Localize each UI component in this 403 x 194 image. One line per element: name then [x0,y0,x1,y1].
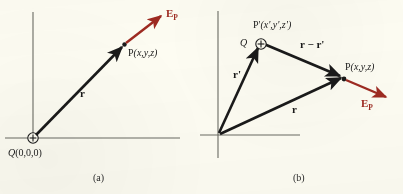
panel-b-r-vector-arrow [220,78,341,134]
panel-b-field-point-coords: (x,y,z) [351,61,375,72]
panel-b-field-point-label: P(x,y,z) [345,62,374,72]
panel-a-r-vector-label: r [80,88,85,99]
panel-a-efield-arrow [126,16,161,43]
panel-b-point-p-dot [342,77,347,82]
panel-a-point-label: P(x,y,z) [128,48,157,58]
panel-a-charge-coords: (0,0,0) [15,147,42,158]
panel-b-r-vector-label: r [292,104,297,115]
panel-a-efield-subscript: P [173,13,178,22]
panel-b-caption: (b) [293,173,305,183]
panel-b-efield-label: EP [361,98,373,112]
panel-a-axes [5,12,180,138]
panel-b-axes [200,11,300,158]
panel-a-point-coords: (x,y,z) [134,47,158,58]
figure-vector-graphics [0,0,403,194]
panel-b-charge-label: Q [240,38,247,48]
panel-b-source-point-label: P'(x',y',z') [253,20,291,30]
panel-b-separation-vector-label: r − r' [300,39,324,50]
panel-a-charge-label: Q(0,0,0) [8,148,42,158]
electric-field-figure: EP P(x,y,z) r Q(0,0,0) (a) P'(x',y',z') … [0,0,403,194]
panel-b-source-point-coords: (x',y',z') [260,19,291,30]
panel-a-caption: (a) [93,173,104,183]
panel-b-efield-arrow [346,80,386,97]
panel-b-charge-symbol [256,39,266,49]
panel-a-r-vector-arrow [36,47,122,135]
panel-b-efield-subscript: P [368,103,373,112]
panel-a-efield-label: EP [166,8,178,22]
panel-b-r-prime-vector-label: r' [233,69,241,80]
